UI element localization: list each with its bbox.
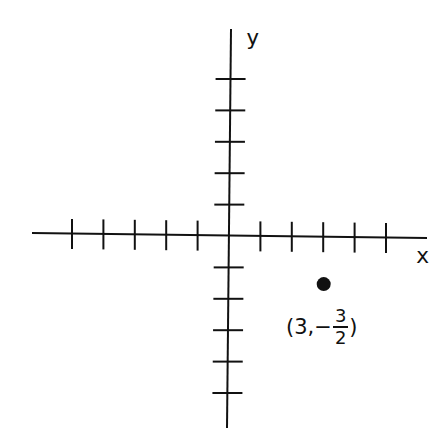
- label-open-paren: (: [286, 315, 294, 339]
- point-label: ( 3 , − 3 2 ): [286, 306, 358, 348]
- fraction-denominator: 2: [333, 328, 348, 347]
- data-points: [317, 277, 331, 291]
- label-minus-sign: −: [314, 315, 332, 339]
- fraction-numerator: 3: [333, 307, 348, 328]
- data-point: [317, 277, 331, 291]
- coordinate-plane: [0, 0, 448, 439]
- y-axis: [227, 29, 231, 428]
- x-axis-label: x: [416, 245, 429, 267]
- y-axis-label: y: [246, 27, 259, 49]
- label-close-paren: ): [349, 315, 357, 339]
- label-x-value: 3: [294, 315, 307, 339]
- label-comma: ,: [308, 315, 315, 339]
- label-fraction: 3 2: [333, 307, 348, 347]
